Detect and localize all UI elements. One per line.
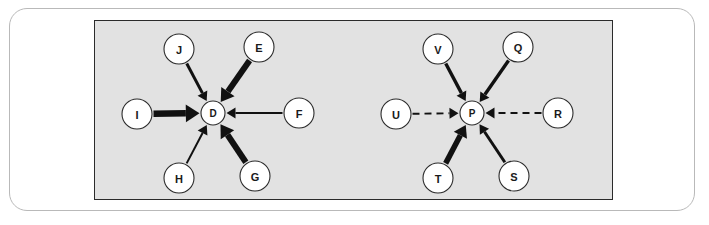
node-label-D: D <box>209 108 216 119</box>
node-label-S: S <box>510 171 517 183</box>
node-label-Q: Q <box>514 42 523 54</box>
node-J[interactable]: J <box>164 34 194 64</box>
arrowhead-U-to-P <box>449 108 458 119</box>
node-label-J: J <box>176 44 182 56</box>
node-label-T: T <box>435 173 442 185</box>
node-label-P: P <box>469 108 476 119</box>
edge-G-to-D <box>227 135 245 163</box>
edge-J-to-D <box>187 64 203 94</box>
arrowhead-R-to-P <box>486 108 495 119</box>
node-label-R: R <box>554 108 562 120</box>
node-R[interactable]: R <box>543 98 573 128</box>
node-V[interactable]: V <box>423 34 453 64</box>
node-P[interactable]: P <box>460 101 484 125</box>
node-G[interactable]: G <box>240 161 270 191</box>
edge-H-to-D <box>187 133 203 163</box>
node-T[interactable]: T <box>423 163 453 193</box>
edge-T-to-P <box>446 135 461 163</box>
diagram-svg: JEIFHGDVQURTSP <box>95 21 614 201</box>
node-H[interactable]: H <box>164 163 194 193</box>
edge-E-to-D <box>228 61 250 92</box>
node-label-V: V <box>434 44 442 56</box>
node-I[interactable]: I <box>122 99 152 129</box>
edge-Q-to-P <box>485 61 509 95</box>
arrowhead-I-to-D <box>186 105 200 123</box>
diagram-panel: JEIFHGDVQURTSP <box>94 20 613 200</box>
edge-S-to-P <box>484 132 504 163</box>
edge-V-to-P <box>446 64 462 94</box>
node-F[interactable]: F <box>284 98 314 128</box>
node-S[interactable]: S <box>499 161 529 191</box>
node-label-U: U <box>392 109 400 121</box>
node-U[interactable]: U <box>381 99 411 129</box>
node-Q[interactable]: Q <box>503 32 533 62</box>
node-label-I: I <box>135 109 138 121</box>
arrowhead-F-to-D <box>227 108 236 119</box>
node-D[interactable]: D <box>201 101 225 125</box>
node-label-H: H <box>175 173 183 185</box>
node-label-E: E <box>255 42 262 54</box>
node-label-F: F <box>296 108 303 120</box>
node-E[interactable]: E <box>244 32 274 62</box>
node-label-G: G <box>251 171 260 183</box>
figure-root: JEIFHGDVQURTSP <box>0 0 709 225</box>
